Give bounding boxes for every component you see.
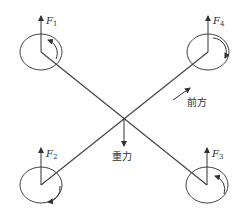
rotation-arrow-ccw-icon [48, 40, 57, 59]
rotation-arrow-cw-icon [48, 186, 60, 202]
rotor-1: F1 [20, 15, 62, 70]
gravity-label: 重力 [112, 150, 132, 162]
svg-text:F3: F3 [211, 148, 223, 161]
rotor-3: F3 [186, 148, 228, 203]
rotor-2: F2 [20, 148, 62, 203]
forward-label: 前方 [187, 96, 207, 108]
forward-direction: 前方 [173, 88, 207, 108]
quadrotor-diagram: F1 F4 F2 F3 重力 前方 [0, 0, 247, 222]
rotation-arrow-ccw-icon [215, 176, 225, 194]
svg-text:F4: F4 [212, 15, 225, 28]
gravity-force: 重力 [112, 118, 132, 162]
rotor-4: F4 [187, 15, 229, 70]
svg-text:F2: F2 [45, 148, 57, 161]
svg-text:F1: F1 [45, 15, 57, 28]
